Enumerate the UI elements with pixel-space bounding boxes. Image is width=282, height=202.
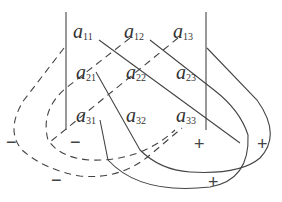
element-a11: a11	[73, 20, 93, 42]
plus-sign-2: +	[257, 134, 268, 154]
plus-sign-1: +	[194, 134, 205, 154]
matrix-elements: a11 a12 a13 a21 a22 a23 a31 a32 a33	[73, 20, 196, 126]
minus-sign-2: −	[70, 132, 81, 152]
negative-diagonal-main	[50, 38, 178, 142]
element-a33: a33	[176, 104, 196, 126]
element-a21: a21	[76, 61, 96, 83]
element-a23: a23	[176, 61, 196, 83]
plus-sign-3: +	[208, 172, 219, 192]
sarrus-diagram: a11 a12 a13 a21 a22 a23 a31 a32 a33 − − …	[0, 0, 282, 202]
element-a12: a12	[124, 20, 144, 42]
negative-diagonal-3	[14, 48, 182, 177]
negative-diagonals	[14, 38, 182, 177]
element-a13: a13	[173, 20, 193, 42]
positive-diagonal-2	[100, 40, 248, 188]
minus-sign-1: −	[6, 132, 17, 152]
minus-sign-3: −	[51, 170, 62, 190]
element-a22: a22	[126, 61, 146, 83]
term-signs: − − − + + +	[6, 132, 268, 192]
element-a32: a32	[126, 104, 146, 126]
